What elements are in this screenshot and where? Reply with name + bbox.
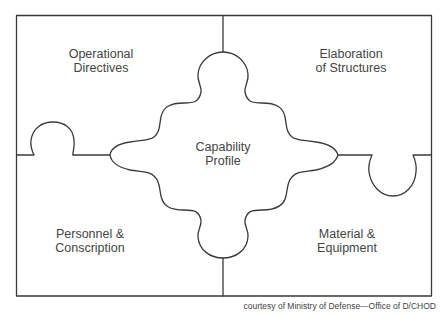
label-elaboration-of-structures: Elaboration of Structures (296, 47, 406, 75)
label-line: Equipment (292, 241, 402, 255)
label-operational-directives: Operational Directives (46, 47, 156, 75)
label-line: Elaboration (296, 47, 406, 61)
label-personnel-conscription: Personnel & Conscription (35, 227, 145, 255)
label-line: Capability (171, 140, 275, 154)
label-material-equipment: Material & Equipment (292, 227, 402, 255)
label-line: Directives (46, 61, 156, 75)
label-line: Profile (171, 154, 275, 168)
left-divider-with-knob (17, 122, 111, 155)
label-line: Conscription (35, 241, 145, 255)
label-line: of Structures (296, 61, 406, 75)
label-capability-profile: Capability Profile (171, 140, 275, 168)
right-divider-with-knob (338, 155, 432, 196)
label-line: Material & (292, 227, 402, 241)
label-line: Operational (46, 47, 156, 61)
credit-line: courtesy of Ministry of Defense—Office o… (243, 301, 436, 311)
label-line: Personnel & (35, 227, 145, 241)
